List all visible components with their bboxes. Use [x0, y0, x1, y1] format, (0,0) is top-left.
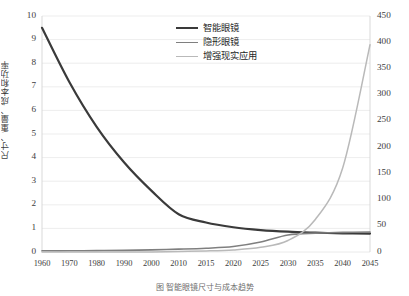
x-tick: 1970 [54, 259, 84, 268]
y-tick-left: 0 [14, 246, 36, 256]
y-tick-right: 0 [377, 246, 399, 256]
legend-item-1[interactable]: 隐形眼镜 [176, 35, 257, 49]
series-line-1 [42, 232, 370, 251]
x-tick: 1980 [82, 259, 112, 268]
legend-label: 智能眼镜 [203, 21, 239, 35]
y-tick-right: 50 [377, 219, 399, 229]
legend-item-0[interactable]: 智能眼镜 [176, 21, 257, 35]
legend-label: 增强现实应用 [203, 49, 257, 63]
y-tick-left: 10 [14, 10, 36, 20]
legend-line-icon [176, 27, 198, 29]
y-tick-left: 5 [14, 128, 36, 138]
x-tick: 2000 [136, 259, 166, 268]
y-tick-left: 4 [14, 151, 36, 161]
x-tick: 2030 [273, 259, 303, 268]
y-tick-right: 200 [377, 141, 399, 151]
x-tick: 2015 [191, 259, 221, 268]
y-tick-right: 350 [377, 62, 399, 72]
chart-legend: 智能眼镜隐形眼镜增强现实应用 [176, 21, 257, 64]
x-tick: 2020 [218, 259, 248, 268]
y-tick-left: 3 [14, 175, 36, 185]
legend-line-icon [176, 42, 198, 43]
x-tick: 2045 [355, 259, 385, 268]
y-tick-right: 450 [377, 10, 399, 20]
x-tick: 2010 [164, 259, 194, 268]
chart-figure: 尺寸、重量、成本和功率 012345678910 050100150200250… [0, 0, 409, 296]
y-tick-right: 100 [377, 193, 399, 203]
legend-line-icon [176, 56, 198, 57]
y-tick-right: 400 [377, 36, 399, 46]
y-tick-left: 1 [14, 222, 36, 232]
y-tick-left: 8 [14, 57, 36, 67]
legend-item-2[interactable]: 增强现实应用 [176, 49, 257, 63]
series-line-2 [42, 45, 370, 252]
figure-caption: 图 智能眼镜尺寸与成本趋势 [0, 281, 409, 296]
y-tick-left: 9 [14, 33, 36, 43]
y-tick-right: 150 [377, 167, 399, 177]
legend-label: 隐形眼镜 [203, 35, 239, 49]
x-tick: 1990 [109, 259, 139, 268]
x-tick: 2035 [300, 259, 330, 268]
y-tick-left: 6 [14, 104, 36, 114]
x-tick: 1960 [27, 259, 57, 268]
y-tick-right: 300 [377, 88, 399, 98]
y-tick-right: 250 [377, 114, 399, 124]
x-tick: 2040 [328, 259, 358, 268]
y-tick-left: 7 [14, 80, 36, 90]
y-tick-left: 2 [14, 198, 36, 208]
x-tick: 2025 [246, 259, 276, 268]
